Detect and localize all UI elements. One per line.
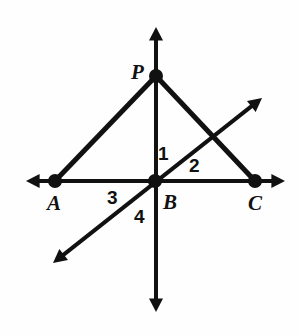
geometry-canvas <box>0 0 299 336</box>
vertical-line-through-P-B-arrowhead-end <box>149 298 163 312</box>
point-label-B: B <box>163 192 177 213</box>
point-dot-B <box>148 174 162 188</box>
segment-PC <box>156 76 255 181</box>
angle-label-2: 2 <box>189 156 200 175</box>
segment-PA <box>55 76 156 181</box>
point-dot-C <box>248 174 262 188</box>
angle-label-4: 4 <box>134 207 145 226</box>
angle-label-1: 1 <box>158 144 169 163</box>
point-label-P: P <box>131 62 144 83</box>
horizontal-line-AC-arrowhead-end <box>271 174 285 188</box>
horizontal-line-AC-arrowhead-start <box>26 174 40 188</box>
geometry-figure: P A B C 1 2 3 4 <box>0 0 299 336</box>
point-dot-P <box>149 69 163 83</box>
point-dot-A <box>48 174 62 188</box>
vertical-line-through-P-B-arrowhead-start <box>149 27 163 41</box>
angle-label-3: 3 <box>107 188 118 207</box>
point-label-C: C <box>248 193 262 214</box>
point-label-A: A <box>47 193 61 214</box>
